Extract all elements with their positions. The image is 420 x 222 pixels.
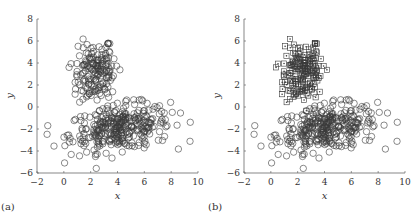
x-tick-label: 6 bbox=[348, 177, 354, 187]
data-point bbox=[72, 91, 78, 97]
data-point bbox=[252, 122, 258, 128]
y-tick-label: 0 bbox=[27, 102, 33, 112]
data-point bbox=[374, 99, 380, 105]
data-point bbox=[76, 53, 82, 59]
data-point bbox=[300, 165, 306, 171]
data-point bbox=[167, 99, 173, 105]
data-point bbox=[155, 137, 161, 143]
data-point bbox=[368, 133, 374, 139]
data-point bbox=[362, 137, 368, 143]
data-point bbox=[326, 149, 332, 155]
data-point bbox=[68, 151, 74, 157]
data-point bbox=[310, 150, 316, 156]
x-tick-label: 10 bbox=[399, 177, 411, 187]
data-point bbox=[283, 153, 289, 159]
x-axis-label: x bbox=[322, 190, 328, 201]
y-axis-label: y bbox=[211, 93, 222, 100]
scatter-panel-b: −20246810−6−4−202468xy(b) bbox=[208, 14, 411, 212]
y-tick-label: 2 bbox=[234, 80, 240, 90]
x-tick-label: 4 bbox=[322, 177, 328, 187]
y-tick-label: −2 bbox=[20, 124, 33, 134]
data-point bbox=[80, 36, 86, 42]
x-tick-label: 6 bbox=[141, 177, 147, 187]
data-point bbox=[91, 121, 97, 127]
data-point bbox=[268, 160, 274, 166]
data-point bbox=[187, 119, 193, 125]
data-point bbox=[298, 121, 304, 127]
data-point bbox=[363, 128, 369, 134]
y-tick-label: −6 bbox=[227, 168, 241, 178]
x-axis-label: x bbox=[115, 190, 121, 201]
y-tick-label: 0 bbox=[234, 102, 240, 112]
y-tick-label: 6 bbox=[234, 36, 240, 46]
data-point bbox=[66, 64, 72, 70]
x-tick-label: 0 bbox=[61, 177, 67, 187]
panel-label: (a) bbox=[1, 201, 15, 212]
x-tick-label: 2 bbox=[295, 177, 301, 187]
panel-label: (b) bbox=[208, 201, 222, 212]
y-tick-label: 4 bbox=[234, 58, 240, 68]
data-point bbox=[290, 149, 296, 155]
y-tick-label: 4 bbox=[27, 58, 33, 68]
data-point bbox=[83, 149, 89, 155]
x-tick-label: 10 bbox=[192, 177, 204, 187]
data-point bbox=[105, 94, 111, 100]
data-point bbox=[338, 101, 344, 107]
y-axis-label: y bbox=[4, 93, 15, 100]
data-point bbox=[117, 67, 123, 73]
scatter-panel-a: −20246810−6−4−202468xy(a) bbox=[1, 14, 204, 212]
data-point bbox=[45, 122, 51, 128]
data-point bbox=[316, 155, 322, 161]
y-tick-label: −4 bbox=[20, 146, 34, 156]
data-point bbox=[251, 131, 257, 137]
data-point bbox=[275, 151, 281, 157]
data-point bbox=[175, 146, 181, 152]
data-point bbox=[131, 101, 137, 107]
y-tick-label: 6 bbox=[27, 36, 33, 46]
y-tick-label: 8 bbox=[234, 14, 240, 24]
data-point bbox=[93, 165, 99, 171]
data-point bbox=[278, 117, 284, 123]
data-point bbox=[394, 138, 400, 144]
data-point bbox=[119, 149, 125, 155]
y-tick-label: 2 bbox=[27, 80, 33, 90]
data-point bbox=[68, 60, 74, 66]
data-point bbox=[96, 44, 102, 50]
data-point bbox=[61, 160, 67, 166]
data-point bbox=[376, 109, 382, 115]
y-tick-label: 8 bbox=[27, 14, 33, 24]
y-tick-label: −2 bbox=[227, 124, 240, 134]
data-point bbox=[258, 143, 264, 149]
data-point bbox=[161, 133, 167, 139]
data-point bbox=[113, 63, 119, 69]
data-point bbox=[103, 150, 109, 156]
data-point bbox=[62, 143, 68, 149]
figure: −20246810−6−4−202468xy(a)−20246810−6−4−2… bbox=[0, 0, 420, 222]
x-tick-label: 2 bbox=[88, 177, 94, 187]
x-tick-label: −2 bbox=[30, 177, 43, 187]
data-point bbox=[74, 60, 80, 66]
data-point bbox=[174, 122, 180, 128]
data-point bbox=[384, 110, 390, 116]
data-point bbox=[177, 110, 183, 116]
data-point bbox=[381, 122, 387, 128]
data-point bbox=[76, 153, 82, 159]
data-point bbox=[44, 131, 50, 137]
x-tick-label: 8 bbox=[375, 177, 381, 187]
data-point bbox=[394, 119, 400, 125]
y-tick-label: −6 bbox=[20, 168, 34, 178]
data-point bbox=[51, 143, 57, 149]
data-point bbox=[382, 146, 388, 152]
x-tick-label: 8 bbox=[168, 177, 174, 187]
data-point bbox=[187, 138, 193, 144]
x-tick-label: 0 bbox=[268, 177, 274, 187]
data-point bbox=[269, 143, 275, 149]
data-point bbox=[169, 109, 175, 115]
x-tick-label: 4 bbox=[115, 177, 121, 187]
y-tick-label: −4 bbox=[227, 146, 241, 156]
x-tick-label: −2 bbox=[237, 177, 250, 187]
data-point bbox=[88, 92, 94, 98]
data-point bbox=[71, 117, 77, 123]
data-point bbox=[109, 155, 115, 161]
data-point bbox=[156, 128, 162, 134]
